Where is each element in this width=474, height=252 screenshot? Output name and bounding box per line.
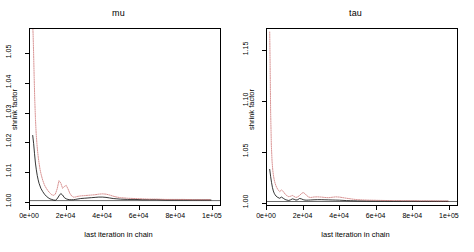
- x-tick-label-mu-1: 2e+04: [46, 212, 86, 219]
- y-tick-mu-2: [25, 142, 29, 143]
- x-tick-label-mu-5: 1e+05: [192, 212, 232, 219]
- plot-lines-mu: [30, 29, 220, 205]
- x-tick-tau-4: [412, 206, 413, 210]
- series-line-mu-0: [33, 135, 211, 200]
- y-tick-label-tau-0: 1.00: [242, 188, 249, 214]
- figure-canvas: mu 1.001.011.021.031.041.050e+002e+044e+…: [0, 0, 474, 252]
- y-tick-tau-1: [262, 152, 266, 153]
- y-tick-label-mu-0: 1.00: [5, 187, 12, 213]
- x-tick-label-tau-5: 1e+05: [429, 212, 469, 219]
- panel-title-tau: tau: [237, 8, 474, 18]
- plot-area-tau: [266, 28, 458, 206]
- x-tick-label-mu-3: 6e+04: [119, 212, 159, 219]
- panel-mu: mu 1.001.011.021.031.041.050e+002e+044e+…: [0, 0, 237, 252]
- plot-lines-tau: [267, 29, 457, 205]
- y-tick-mu-4: [25, 83, 29, 84]
- y-tick-label-mu-5: 1.05: [5, 39, 12, 65]
- series-line-tau-1: [270, 32, 448, 201]
- x-tick-tau-1: [303, 206, 304, 210]
- series-line-tau-0: [270, 169, 448, 201]
- y-tick-mu-3: [25, 113, 29, 114]
- x-tick-tau-5: [449, 206, 450, 210]
- x-tick-label-tau-4: 8e+04: [392, 212, 432, 219]
- x-tick-label-mu-4: 8e+04: [155, 212, 195, 219]
- y-tick-tau-3: [262, 50, 266, 51]
- y-tick-tau-0: [262, 203, 266, 204]
- x-tick-label-mu-2: 4e+04: [82, 212, 122, 219]
- x-tick-tau-3: [376, 206, 377, 210]
- series-line-mu-1: [33, 29, 211, 200]
- y-tick-label-mu-1: 1.01: [5, 157, 12, 183]
- x-tick-mu-0: [29, 206, 30, 210]
- y-tick-mu-5: [25, 53, 29, 54]
- y-tick-mu-1: [25, 172, 29, 173]
- x-tick-mu-1: [66, 206, 67, 210]
- x-axis-title-mu: last iteration in chain: [0, 230, 237, 239]
- x-tick-label-tau-1: 2e+04: [283, 212, 323, 219]
- x-tick-mu-2: [102, 206, 103, 210]
- x-axis-title-tau: last iteration in chain: [237, 230, 474, 239]
- y-tick-tau-2: [262, 101, 266, 102]
- x-tick-tau-0: [266, 206, 267, 210]
- y-tick-mu-0: [25, 202, 29, 203]
- x-tick-label-tau-2: 4e+04: [319, 212, 359, 219]
- panel-tau: tau 1.001.051.101.150e+002e+044e+046e+04…: [237, 0, 474, 252]
- x-tick-label-tau-0: 0e+00: [246, 212, 286, 219]
- y-axis-title-tau: shrink factor: [247, 75, 256, 145]
- x-tick-label-mu-0: 0e+00: [9, 212, 49, 219]
- x-tick-mu-5: [212, 206, 213, 210]
- panel-title-mu: mu: [0, 8, 237, 18]
- plot-area-mu: [29, 28, 221, 206]
- x-tick-mu-4: [175, 206, 176, 210]
- x-tick-mu-3: [139, 206, 140, 210]
- x-tick-tau-2: [339, 206, 340, 210]
- y-tick-label-tau-3: 1.15: [242, 36, 249, 62]
- x-tick-label-tau-3: 6e+04: [356, 212, 396, 219]
- y-axis-title-mu: shrink factor: [10, 75, 19, 145]
